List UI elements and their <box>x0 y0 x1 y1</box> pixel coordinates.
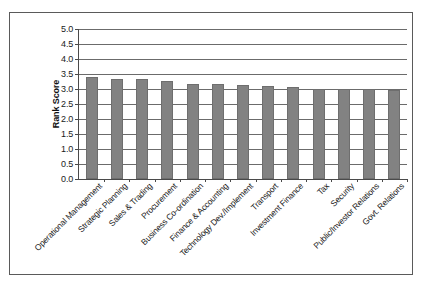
y-axis-tick <box>75 179 79 180</box>
y-axis-tick-label: 0.5 <box>61 159 73 169</box>
y-axis-label: Rank Score <box>32 29 81 179</box>
bar[interactable] <box>388 90 400 179</box>
y-axis-tick-label: 3.5 <box>61 69 73 79</box>
bar[interactable] <box>161 81 173 179</box>
bar[interactable] <box>111 79 123 179</box>
y-axis-tick-label: 2.5 <box>61 99 73 109</box>
bar-slot <box>306 29 331 179</box>
bar-slot <box>104 29 129 179</box>
bar-slot <box>129 29 154 179</box>
y-axis-tick-label: 0.0 <box>61 174 73 184</box>
y-axis-tick-label: 3.0 <box>61 84 73 94</box>
y-axis-tick-label: 4.5 <box>61 39 73 49</box>
y-axis-tick-label: 1.5 <box>61 129 73 139</box>
bar-slot <box>256 29 281 179</box>
bar-series <box>79 29 407 179</box>
figure: Rank Score 5.04.54.03.53.02.52.01.51.00.… <box>0 0 425 298</box>
bar-slot <box>281 29 306 179</box>
y-axis-tick-label: 4.0 <box>61 54 73 64</box>
x-axis-labels: Operational ManagementStrategic Planning… <box>78 181 418 281</box>
bar[interactable] <box>313 89 325 179</box>
bar[interactable] <box>212 84 224 179</box>
bar-slot <box>382 29 407 179</box>
bar[interactable] <box>86 77 98 179</box>
chart-frame: Rank Score 5.04.54.03.53.02.52.01.51.00.… <box>9 12 413 275</box>
plot-area: 5.04.54.03.53.02.52.01.51.00.50.0 <box>78 29 407 180</box>
bar-slot <box>331 29 356 179</box>
bar-slot <box>180 29 205 179</box>
bar-slot <box>357 29 382 179</box>
bar[interactable] <box>262 86 274 179</box>
x-axis-label: Tax <box>315 181 331 197</box>
bar[interactable] <box>136 79 148 179</box>
bar-slot <box>205 29 230 179</box>
bar[interactable] <box>363 89 375 179</box>
y-axis-tick-label: 5.0 <box>61 24 73 34</box>
bar[interactable] <box>187 84 199 179</box>
bar-slot <box>155 29 180 179</box>
y-axis-tick-label: 2.0 <box>61 114 73 124</box>
y-axis-label-text: Rank Score <box>51 80 61 129</box>
bar[interactable] <box>287 87 299 179</box>
bar[interactable] <box>237 85 249 180</box>
bar[interactable] <box>338 89 350 179</box>
y-axis-tick-label: 1.0 <box>61 144 73 154</box>
bar-slot <box>230 29 255 179</box>
bar-slot <box>79 29 104 179</box>
